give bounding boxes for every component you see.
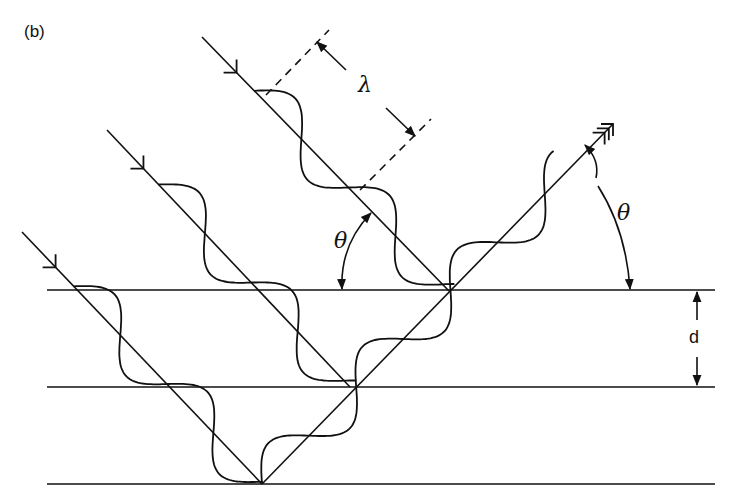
wavelength-label: λ <box>358 72 372 97</box>
reflected-angle-label: θ <box>617 200 630 225</box>
incident-angle-label: θ <box>334 228 347 253</box>
annotation-markers <box>266 30 697 385</box>
incident-ray-1 <box>202 37 449 291</box>
reflected-wave <box>261 151 553 484</box>
wave-trains <box>74 90 554 484</box>
incident-ray-3 <box>22 232 262 484</box>
wavelength-arrow-icon <box>386 108 415 136</box>
reflected-ray <box>262 124 613 484</box>
wavelength-guide-2 <box>360 119 431 190</box>
plane-spacing-label: d <box>689 327 699 348</box>
panel-label: (b) <box>24 22 45 42</box>
incident-wave-1 <box>254 90 454 284</box>
wavelength-guide-1 <box>266 30 329 95</box>
lattice-planes <box>47 290 715 484</box>
x-ray-beams <box>22 37 613 484</box>
wavelength-arrow-icon <box>317 42 346 70</box>
incident-wave-2 <box>159 184 356 381</box>
